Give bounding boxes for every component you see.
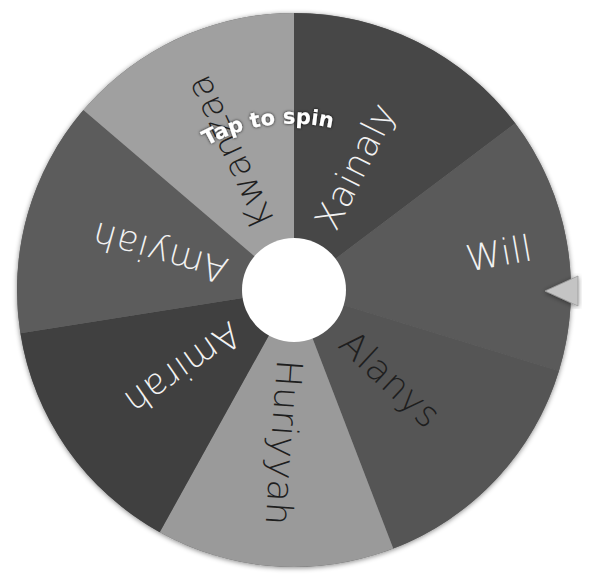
wheel-canvas: XainalyWillAlanysHuriyyahAmirahAmyiahKwa… (0, 0, 593, 579)
wheel-hub[interactable] (242, 238, 346, 342)
spin-wheel-game: XainalyWillAlanysHuriyyahAmirahAmyiahKwa… (0, 0, 593, 579)
